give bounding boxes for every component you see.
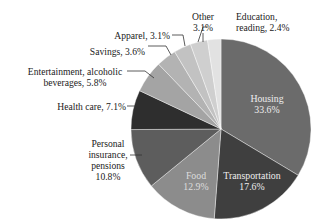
- insurance-line2: insurance,: [86, 149, 130, 160]
- other-line1: Other: [186, 11, 220, 22]
- insurance-line1: Personal: [86, 138, 130, 149]
- label-transportation: Transportation 17.6%: [216, 170, 288, 192]
- label-entertainment: Entertainment, alcoholic beverages, 5.8%: [22, 66, 128, 88]
- label-apparel: Apparel, 3.1%: [90, 30, 170, 41]
- food-name: Food: [178, 170, 214, 181]
- entertainment-line2: beverages, 5.8%: [22, 77, 128, 88]
- transportation-name: Transportation: [216, 170, 288, 181]
- education-line1: Education,: [236, 11, 316, 22]
- label-other: Other 3.1%: [186, 11, 220, 33]
- insurance-line4: 10.8%: [86, 171, 130, 182]
- entertainment-line1: Entertainment, alcoholic: [22, 66, 128, 77]
- insurance-line3: pensions: [86, 160, 130, 171]
- education-line2: reading, 2.4%: [236, 22, 316, 33]
- label-housing: Housing 33.6%: [236, 93, 298, 115]
- label-insurance: Personal insurance, pensions 10.8%: [86, 138, 130, 182]
- label-savings: Savings, 3.6%: [70, 46, 145, 57]
- label-health: Health care, 7.1%: [40, 101, 126, 112]
- leader-savings: [148, 46, 171, 55]
- transportation-pct: 17.6%: [216, 181, 288, 192]
- label-education: Education, reading, 2.4%: [236, 11, 316, 33]
- housing-pct: 33.6%: [236, 104, 298, 115]
- label-food: Food 12.9%: [178, 170, 214, 192]
- leader-apparel: [172, 35, 185, 46]
- food-pct: 12.9%: [178, 181, 214, 192]
- other-line2: 3.1%: [186, 22, 220, 33]
- housing-name: Housing: [236, 93, 298, 104]
